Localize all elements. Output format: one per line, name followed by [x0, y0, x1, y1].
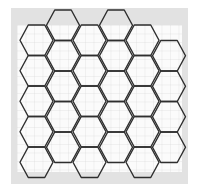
hex-grid-diagram — [0, 0, 199, 191]
hex-grid-canvas — [0, 0, 199, 191]
